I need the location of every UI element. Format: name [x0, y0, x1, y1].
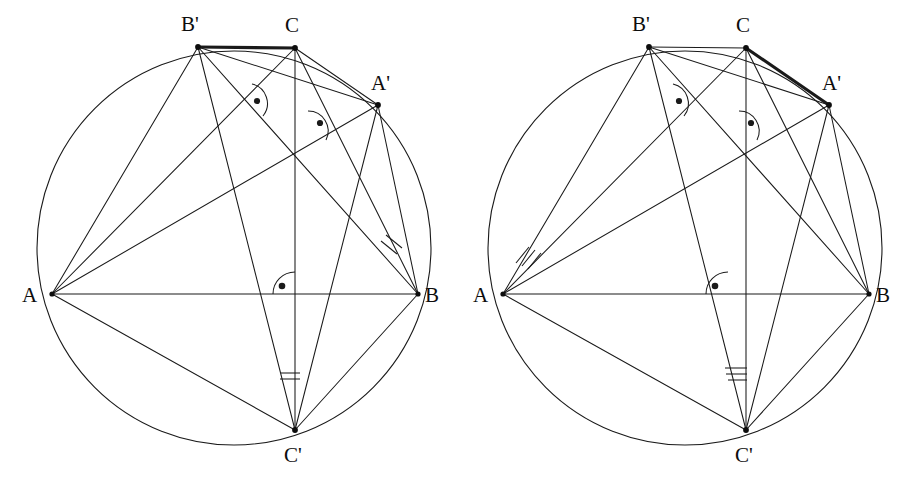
- label-A: A: [22, 283, 38, 307]
- right-angle-mark-3: [273, 272, 295, 294]
- angle-mark-at-Cprime: [725, 368, 747, 380]
- vertex-dot-C: [743, 45, 749, 51]
- label-C: C: [736, 13, 750, 37]
- segment-A-Cprime: [52, 294, 295, 430]
- label-Bprime: B': [181, 12, 199, 36]
- vertex-dot-A: [49, 291, 54, 296]
- vertex-dot-B: [415, 291, 420, 296]
- vertex-dot-Bprime: [646, 44, 652, 50]
- vertex-dot-Cprime: [292, 427, 298, 433]
- label-Aprime: A': [371, 71, 390, 95]
- label-Aprime: A': [822, 71, 841, 95]
- segment-B-Aprime: [829, 105, 869, 294]
- vertex-dot-Bprime: [195, 44, 201, 50]
- left-figure-panel: A B C A' B' C': [0, 0, 452, 482]
- geometry-figure: A B C A' B' C': [0, 0, 903, 482]
- right-angle-mark-3: [706, 272, 728, 294]
- angle-mark-at-Cprime: [280, 373, 300, 379]
- highlight-segment-C-Aprime: [746, 48, 829, 105]
- segment-B-Cprime: [746, 294, 869, 430]
- segment-Bprime-Cprime: [649, 47, 746, 430]
- vertex-dot-A: [500, 291, 505, 296]
- segment-Aprime-Cprime: [295, 105, 378, 430]
- label-Bprime: B': [632, 12, 650, 36]
- segment-A-Cprime: [503, 294, 746, 430]
- label-C: C: [285, 13, 299, 37]
- highlight-segment-Bprime-C: [198, 47, 295, 48]
- label-B: B: [425, 283, 439, 307]
- vertex-dot-Aprime: [375, 102, 381, 108]
- label-Cprime: C': [735, 443, 753, 467]
- label-A: A: [473, 283, 489, 307]
- segment-AC: [52, 48, 295, 294]
- vertex-dot-Aprime: [826, 102, 832, 108]
- label-B: B: [876, 283, 890, 307]
- segment-BC: [295, 48, 418, 294]
- vertex-dot-C: [292, 45, 298, 51]
- segment-Aprime-Cprime: [746, 105, 829, 430]
- vertex-dot-B: [866, 291, 871, 296]
- segment-A-Aprime: [52, 105, 378, 294]
- right-angle-mark-2: [739, 111, 759, 140]
- right-figure-panel: A B C A' B' C': [451, 0, 903, 482]
- segment-C-Aprime: [295, 48, 378, 105]
- segment-Bprime-C: [649, 47, 746, 48]
- label-Cprime: C': [284, 443, 302, 467]
- segment-B-Aprime: [378, 105, 418, 294]
- segment-A-Aprime: [503, 105, 829, 294]
- segment-Bprime-Cprime: [198, 47, 295, 430]
- segment-AC: [503, 48, 746, 294]
- segment-BC: [746, 48, 869, 294]
- vertex-dot-Cprime: [743, 427, 749, 433]
- segment-B-Cprime: [295, 294, 418, 430]
- angle-mark-at-B: [381, 235, 402, 254]
